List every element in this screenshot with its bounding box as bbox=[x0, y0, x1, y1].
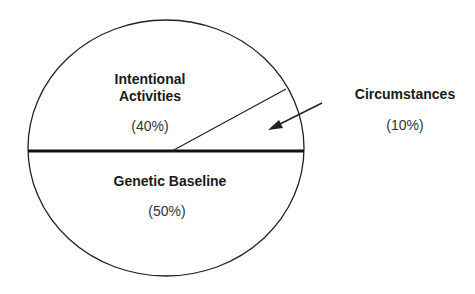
pie-chart bbox=[0, 0, 475, 294]
pct-intentional-activities: (40%) bbox=[100, 118, 200, 135]
label-line: Activities bbox=[80, 88, 220, 105]
pie-outline bbox=[28, 20, 304, 276]
label-line: Intentional bbox=[80, 71, 220, 88]
label-genetic-baseline: Genetic Baseline bbox=[90, 173, 250, 190]
pct-circumstances: (10%) bbox=[355, 117, 455, 134]
label-circumstances: Circumstances bbox=[335, 86, 475, 103]
label-intentional-activities: Intentional Activities bbox=[80, 71, 220, 105]
pct-genetic-baseline: (50%) bbox=[117, 203, 217, 220]
